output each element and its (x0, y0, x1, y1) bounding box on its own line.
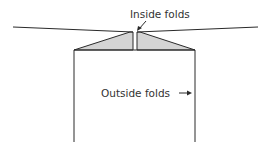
right-inside-fold (137, 32, 195, 50)
right-flap-line (137, 27, 258, 32)
outside-folds-arrowhead (187, 91, 192, 96)
outside-folds-label: Outside folds (101, 87, 170, 99)
inside-folds-label: Inside folds (130, 8, 190, 20)
left-flap-line (13, 27, 133, 32)
left-inside-fold (74, 32, 133, 50)
fold-diagram: Inside folds Outside folds (0, 0, 273, 153)
